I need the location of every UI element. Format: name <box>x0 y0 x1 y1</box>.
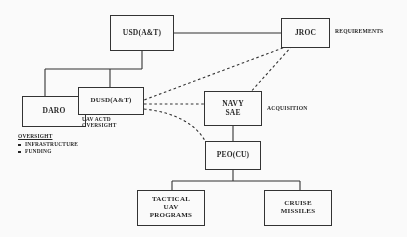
node-daro-label: DARO <box>23 107 85 115</box>
annotation-acquisition: ACQUISITION <box>267 105 307 111</box>
annotation-uav-actd-oversight: UAV ACTD OVERSIGHT <box>82 116 116 128</box>
node-dusd-at-label: DUSD(A&T) <box>79 97 143 105</box>
node-tactical-uav-programs[interactable]: TACTICAL UAV PROGRAMS <box>137 190 205 226</box>
node-cruise-missiles[interactable]: CRUISE MISSILES <box>264 190 332 226</box>
legend-item-funding: FUNDING <box>18 148 78 155</box>
node-peo-cu[interactable]: PEO(CU) <box>205 141 261 170</box>
node-navy-sae[interactable]: NAVY SAE <box>204 91 262 126</box>
node-jroc-label: JROC <box>282 29 329 37</box>
node-cruise-missiles-label: CRUISE MISSILES <box>265 200 331 216</box>
node-jroc[interactable]: JROC <box>281 18 330 48</box>
legend-oversight-items: INFRASTRUCTURE FUNDING <box>18 141 78 155</box>
node-usd-at[interactable]: USD(A&T) <box>110 15 174 51</box>
legend-oversight: OVERSIGHT INFRASTRUCTURE FUNDING <box>18 133 78 154</box>
legend-item-infrastructure: INFRASTRUCTURE <box>18 141 78 148</box>
annotation-requirements: REQUIREMENTS <box>335 28 383 34</box>
node-navy-sae-label: NAVY SAE <box>205 100 261 117</box>
legend-oversight-title: OVERSIGHT <box>18 133 78 140</box>
node-peo-cu-label: PEO(CU) <box>206 151 260 159</box>
connector-jroc-to-navysae-dashed <box>248 46 292 95</box>
diagram-canvas: USD(A&T) JROC REQUIREMENTS DARO DUSD(A&T… <box>0 0 407 237</box>
node-usd-at-label: USD(A&T) <box>111 29 173 37</box>
node-tactical-uav-programs-label: TACTICAL UAV PROGRAMS <box>138 196 204 219</box>
connector-dusd-to-peocu-dashed <box>144 109 205 141</box>
node-dusd-at[interactable]: DUSD(A&T) <box>78 87 144 115</box>
node-daro[interactable]: DARO <box>22 96 86 127</box>
